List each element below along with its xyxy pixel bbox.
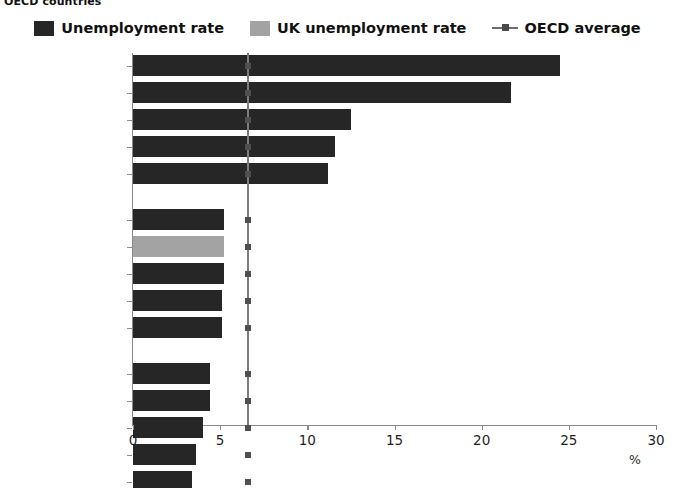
bar xyxy=(133,109,351,130)
bar xyxy=(133,163,328,184)
legend-label-oecd-average: OECD average xyxy=(524,21,640,36)
y-axis-tick xyxy=(127,120,132,121)
y-axis-tick xyxy=(127,328,132,329)
y-axis-tick xyxy=(127,66,132,67)
oecd-average-line xyxy=(247,53,249,425)
x-axis-tick xyxy=(395,425,396,430)
y-axis-tick xyxy=(127,428,132,429)
legend-label-unemployment-rate: Unemployment rate xyxy=(61,21,224,36)
bar xyxy=(133,363,210,384)
chart-legend: Unemployment rate UK unemployment rate O… xyxy=(0,17,675,39)
x-axis-tick-label: 0 xyxy=(129,432,138,448)
y-axis-tick xyxy=(127,93,132,94)
bar xyxy=(133,317,222,338)
oecd-average-marker xyxy=(245,171,251,177)
x-axis-tick-label: 15 xyxy=(386,432,403,448)
y-axis-tick xyxy=(127,174,132,175)
oecd-average-marker xyxy=(245,90,251,96)
legend-swatch-dark-icon xyxy=(34,21,54,36)
plot-area: GreeceSpainPortugalItalySlovakiaNew Zeal… xyxy=(0,48,675,488)
oecd-average-marker xyxy=(245,63,251,69)
x-axis-tick-label: 20 xyxy=(473,432,490,448)
x-axis-tick xyxy=(133,425,134,430)
oecd-average-marker xyxy=(245,244,251,250)
bar xyxy=(133,390,210,411)
page-title: OECD countries xyxy=(4,0,102,8)
y-axis-tick xyxy=(127,274,132,275)
y-axis-tick xyxy=(127,401,132,402)
bar xyxy=(133,290,222,311)
oecd-average-marker xyxy=(245,371,251,377)
bar xyxy=(133,263,224,284)
bar xyxy=(133,136,335,157)
legend-label-uk-unemployment-rate: UK unemployment rate xyxy=(277,21,466,36)
x-axis-tick-label: 30 xyxy=(647,432,664,448)
x-axis-tick-label: 5 xyxy=(216,432,225,448)
bar xyxy=(133,82,511,103)
oecd-average-marker xyxy=(245,117,251,123)
oecd-average-marker xyxy=(245,217,251,223)
oecd-average-marker xyxy=(245,452,251,458)
bar xyxy=(133,236,224,257)
x-axis-tick xyxy=(307,425,308,430)
bar xyxy=(133,209,224,230)
legend-item-unemployment-rate[interactable]: Unemployment rate xyxy=(34,21,224,36)
y-axis-tick xyxy=(127,482,132,483)
y-axis-tick xyxy=(127,301,132,302)
oecd-average-marker xyxy=(245,144,251,150)
y-axis-tick xyxy=(127,147,132,148)
legend-line-dot-icon xyxy=(492,22,518,34)
legend-item-uk-unemployment-rate[interactable]: UK unemployment rate xyxy=(250,21,466,36)
oecd-average-marker xyxy=(245,479,251,485)
oecd-average-marker xyxy=(245,398,251,404)
y-axis-tick xyxy=(127,455,132,456)
x-axis-tick xyxy=(569,425,570,430)
y-axis-tick xyxy=(127,247,132,248)
bar xyxy=(133,444,196,465)
oecd-average-marker xyxy=(245,425,251,431)
bar xyxy=(133,55,560,76)
x-axis-tick xyxy=(482,425,483,430)
unemployment-rate-bar-chart: OECD countries Unemployment rate UK unem… xyxy=(0,0,675,488)
legend-item-oecd-average[interactable]: OECD average xyxy=(492,21,640,36)
oecd-average-marker xyxy=(245,271,251,277)
oecd-average-marker xyxy=(245,298,251,304)
x-axis-tick-label: 10 xyxy=(299,432,316,448)
y-axis-tick xyxy=(127,220,132,221)
x-axis-tick xyxy=(656,425,657,430)
legend-swatch-gray-icon xyxy=(250,21,270,36)
oecd-average-marker xyxy=(245,325,251,331)
x-axis-unit-label: % xyxy=(629,452,641,467)
x-axis-tick xyxy=(220,425,221,430)
y-axis-tick xyxy=(127,374,132,375)
bar xyxy=(133,471,192,488)
bar xyxy=(133,417,203,438)
x-axis-tick-label: 25 xyxy=(560,432,577,448)
